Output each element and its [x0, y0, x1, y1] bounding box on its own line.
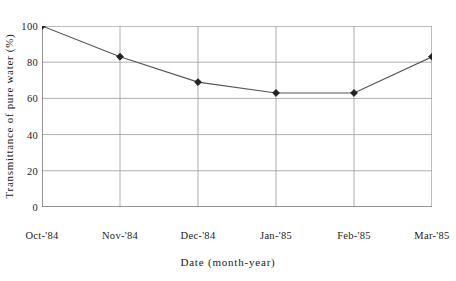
plot-area: [42, 26, 432, 207]
x-axis-tick-label: Nov-'84: [102, 230, 138, 241]
data-line: [42, 26, 432, 93]
data-point-marker: [429, 53, 432, 60]
series-polyline: [42, 26, 432, 93]
data-point-marker: [117, 53, 124, 60]
axis-frame: [42, 26, 432, 207]
y-axis-tick-label: 60: [12, 93, 38, 104]
line-chart-svg: [42, 26, 432, 207]
x-axis-tick-label: Jan-'85: [260, 230, 292, 241]
x-axis-title-text: Date (month-year): [180, 256, 275, 268]
data-markers: [42, 26, 432, 96]
y-axis-tick-label: 0: [12, 202, 38, 213]
grid-lines: [42, 26, 432, 207]
data-point-marker: [195, 79, 202, 86]
y-axis-tick-label: 80: [12, 57, 38, 68]
y-axis-tick-label: 100: [12, 21, 38, 32]
x-axis-tick-label: Oct-'84: [25, 230, 58, 241]
data-point-marker: [273, 90, 280, 97]
x-axis-tick-label: Mar-'85: [414, 230, 449, 241]
x-axis-title: Date (month-year): [0, 256, 456, 268]
data-point-marker: [351, 90, 358, 97]
y-axis-tick-label: 20: [12, 165, 38, 176]
y-axis-tick-label: 40: [12, 129, 38, 140]
chart-figure: Transmittance of pure water (%) 02040608…: [0, 0, 456, 281]
x-axis-tick-label: Feb-'85: [337, 230, 371, 241]
x-axis-tick-label: Dec-'84: [181, 230, 216, 241]
